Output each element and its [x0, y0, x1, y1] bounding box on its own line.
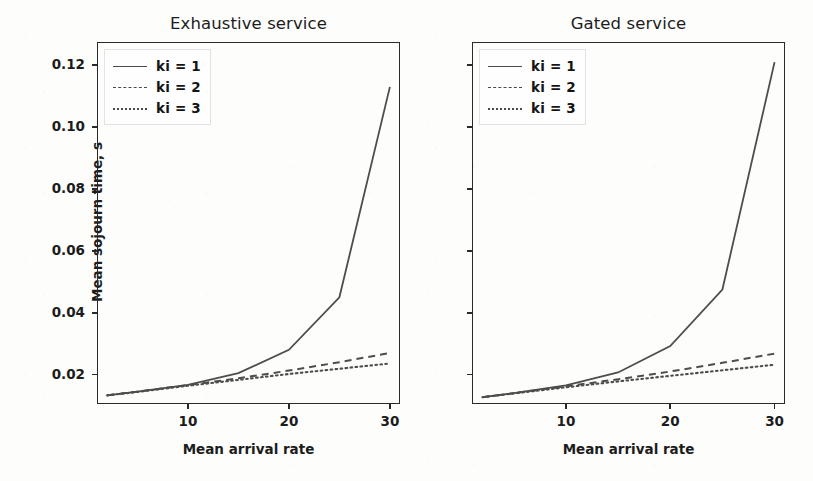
curve-ki1 — [107, 87, 390, 395]
x-axis-label: Mean arrival rate — [472, 441, 785, 457]
data-curves-right — [410, 0, 813, 481]
legend-entry[interactable]: ki = 2 — [113, 76, 201, 97]
legend-label: ki = 1 — [531, 58, 576, 74]
legend-label: ki = 1 — [156, 58, 201, 74]
x-axis-label: Mean arrival rate — [97, 441, 400, 457]
subplot-gated-service: Gated service 102030 ki = 1ki = 2ki = 3 … — [410, 0, 813, 481]
legend-line-dotted-icon — [488, 102, 522, 114]
legend-entry[interactable]: ki = 1 — [488, 55, 576, 76]
legend-entry[interactable]: ki = 2 — [488, 76, 576, 97]
legend-label: ki = 2 — [156, 79, 201, 95]
figure-canvas: Exhaustive service Mean sojourn time, s … — [0, 0, 813, 481]
legend-line-solid-icon — [113, 60, 147, 72]
subplot-exhaustive-service: Exhaustive service Mean sojourn time, s … — [0, 0, 410, 481]
legend-line-solid-icon — [488, 60, 522, 72]
legend-entry[interactable]: ki = 1 — [113, 55, 201, 76]
legend-label: ki = 3 — [531, 100, 576, 116]
legend-line-dotted-icon — [113, 102, 147, 114]
legend-label: ki = 3 — [156, 100, 201, 116]
curve-ki2 — [107, 353, 390, 395]
legend-entry[interactable]: ki = 3 — [488, 97, 576, 118]
curve-ki3 — [482, 365, 774, 397]
legend-right: ki = 1ki = 2ki = 3 — [479, 49, 586, 125]
legend-label: ki = 2 — [531, 79, 576, 95]
legend-line-dashed-icon — [488, 81, 522, 93]
legend-left: ki = 1ki = 2ki = 3 — [104, 49, 211, 125]
legend-entry[interactable]: ki = 3 — [113, 97, 201, 118]
legend-line-dashed-icon — [113, 81, 147, 93]
